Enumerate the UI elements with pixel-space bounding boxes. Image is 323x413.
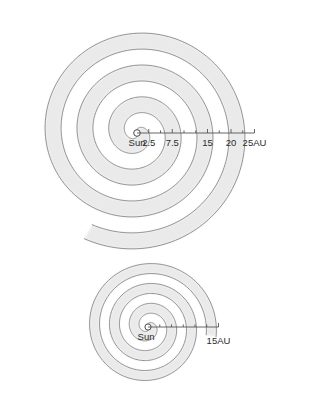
top-panel-tick-label-3: 20	[226, 137, 236, 148]
bottom-panel-sun-label: Sun	[138, 331, 155, 342]
bottom-panel: Sun 15AU	[90, 264, 231, 381]
spiral-diagram-svg: Sun 2.5 7.5 15 20 25AU Sun 15AU	[0, 0, 323, 413]
bottom-panel-shaded-bands	[90, 264, 217, 381]
top-panel-tick-label-2: 15	[202, 137, 212, 148]
top-panel-tick-label-1: 7.5	[166, 137, 179, 148]
top-panel-tick-label-0: 2.5	[142, 137, 155, 148]
bottom-panel-tick-label-0: 15AU	[207, 335, 231, 346]
spiral-figure-root: Sun 2.5 7.5 15 20 25AU Sun 15AU	[0, 0, 323, 413]
top-panel-tick-label-4: 25AU	[243, 137, 267, 148]
top-panel: Sun 2.5 7.5 15 20 25AU	[45, 33, 266, 249]
